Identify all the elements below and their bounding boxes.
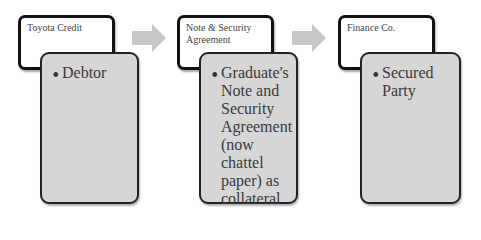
step-1-detail: Debtor: [62, 64, 133, 82]
step-3-detail-box: • Secured Party: [360, 52, 461, 204]
step-2-detail-box: • Graduate's Note and Security Agreement…: [199, 52, 298, 204]
step-2-detail: Graduate's Note and Security Agreement (…: [221, 64, 292, 208]
right-arrow-icon: [132, 24, 166, 52]
step-2-title: Note & Security Agreement: [186, 22, 267, 46]
step-3-title: Finance Co.: [347, 22, 395, 34]
right-arrow-icon: [292, 24, 326, 52]
step-1-title: Toyota Credit: [27, 22, 82, 34]
step-1-detail-box: • Debtor: [40, 52, 139, 204]
step-3-detail: Secured Party: [382, 64, 455, 100]
bullet-icon: •: [51, 66, 60, 85]
bullet-icon: •: [210, 66, 219, 85]
bullet-icon: •: [371, 66, 380, 85]
